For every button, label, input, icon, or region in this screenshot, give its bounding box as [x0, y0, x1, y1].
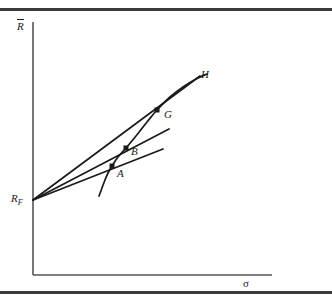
- axes-group: [33, 22, 272, 275]
- series-efficient-frontier-curve: [99, 74, 207, 196]
- series-line-through-A: [33, 149, 163, 200]
- y-axis-label-text: R: [17, 20, 24, 32]
- point-label-a: A: [117, 168, 124, 179]
- series-group: [33, 74, 207, 200]
- risk-free-rate-label-text: R: [11, 192, 18, 204]
- y-axis-label: R: [17, 19, 24, 32]
- data-point-marker-b: [124, 146, 129, 151]
- figure-container: R σ RF A B G H: [0, 0, 332, 305]
- x-axis-label: σ: [243, 278, 249, 289]
- chart-canvas: [0, 0, 332, 305]
- series-capital-market-line-tangent-H: [33, 76, 200, 200]
- point-label-b: B: [131, 146, 138, 157]
- point-label-g: G: [164, 109, 172, 120]
- point-label-h: H: [201, 69, 209, 80]
- data-point-marker-a: [110, 164, 115, 169]
- risk-free-rate-label-subscript: F: [18, 198, 23, 207]
- risk-free-rate-label: RF: [11, 193, 23, 207]
- data-point-marker-g: [155, 108, 160, 113]
